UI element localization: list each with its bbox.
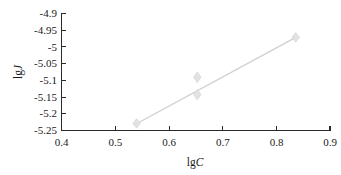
y-tick-label: -4.95 xyxy=(34,24,57,36)
y-tick-label: -5.15 xyxy=(34,91,57,103)
y-tick-label: -5.1 xyxy=(40,74,57,86)
x-tick-label: 0.9 xyxy=(323,136,337,148)
x-tick-label: 0.5 xyxy=(108,136,122,148)
x-axis-title-variable: C xyxy=(196,156,204,168)
chart-canvas: -4.9 -4.95 -5 -5.05 -5.1 -5.15 -5.2 -5.2… xyxy=(0,0,341,175)
chart-figure: -4.9 -4.95 -5 -5.05 -5.1 -5.15 -5.2 -5.2… xyxy=(0,0,341,175)
y-tick-label: -5.05 xyxy=(34,57,57,69)
y-tick-label: -4.9 xyxy=(40,7,58,19)
y-axis-title-prefix: lg xyxy=(12,70,25,79)
x-axis-title-prefix: lg xyxy=(187,156,196,169)
x-tick-label: 0.4 xyxy=(55,136,69,148)
y-axis-title: lgJ xyxy=(12,64,25,79)
y-axis-title-variable: J xyxy=(12,64,24,70)
x-tick-label: 0.7 xyxy=(216,136,230,148)
x-axis-title: lgC xyxy=(187,156,204,169)
x-tick-label: 0.8 xyxy=(270,136,284,148)
y-tick-label: -5.25 xyxy=(34,124,57,136)
x-tick-label: 0.6 xyxy=(162,136,176,148)
y-tick-label: -5.2 xyxy=(40,107,57,119)
y-tick-label: -5 xyxy=(48,41,58,53)
